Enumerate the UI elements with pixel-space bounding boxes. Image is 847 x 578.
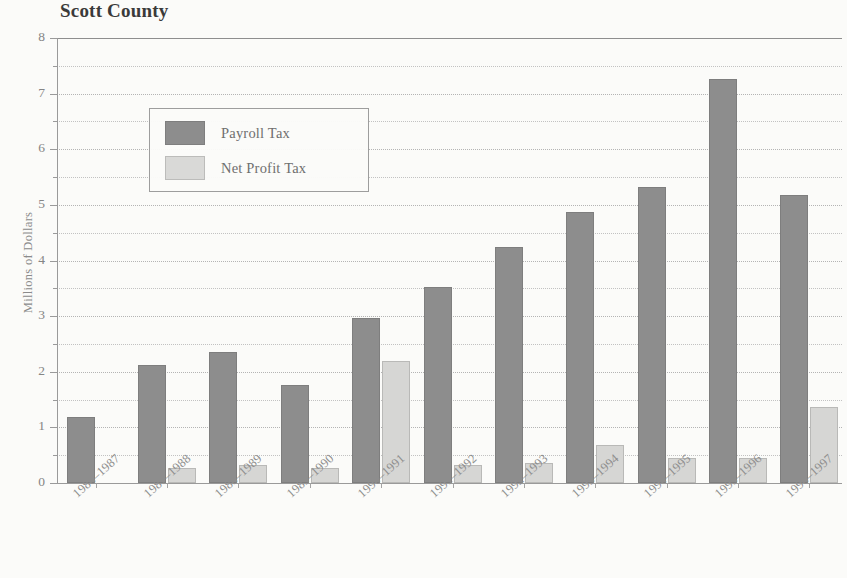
y-axis-tick: [50, 149, 58, 150]
bar-group: [495, 38, 553, 483]
y-axis-tick: [50, 372, 58, 373]
bar-payroll-tax: [495, 247, 523, 483]
y-axis-tick: [53, 177, 58, 178]
y-axis-tick-label: 7: [17, 85, 45, 101]
y-axis-tick: [53, 400, 58, 401]
bar-payroll-tax: [352, 318, 380, 483]
page-title: Scott County: [60, 0, 169, 22]
bar-group: [709, 38, 767, 483]
y-axis-tick: [50, 94, 58, 95]
y-axis-tick-label: 0: [17, 474, 45, 490]
y-axis-tick: [50, 205, 58, 206]
y-axis-tick: [53, 455, 58, 456]
legend-label-payroll-tax: Payroll Tax: [221, 125, 290, 142]
y-axis-tick: [50, 261, 58, 262]
bar-group: [352, 38, 410, 483]
bar-chart-figure: Scott County Millions of Dollars 0123456…: [0, 0, 847, 578]
y-axis-tick: [50, 483, 58, 484]
chart-legend: Payroll Tax Net Profit Tax: [149, 108, 369, 192]
bar-group: [209, 38, 267, 483]
y-axis-tick-label: 8: [17, 29, 45, 45]
legend-swatch-net-profit-tax: [165, 156, 205, 180]
plot-area: 012345678 1986–19871987–19881988–1989198…: [57, 38, 842, 483]
y-axis-tick: [53, 288, 58, 289]
y-axis-tick-label: 6: [17, 140, 45, 156]
y-axis-tick: [50, 427, 58, 428]
bar-group: [424, 38, 482, 483]
bar-payroll-tax: [709, 79, 737, 483]
legend-item-payroll-tax: Payroll Tax: [165, 119, 290, 147]
y-axis-tick-label: 5: [17, 196, 45, 212]
bar-payroll-tax: [638, 187, 666, 483]
legend-swatch-payroll-tax: [165, 121, 205, 145]
y-axis-tick-label: 2: [17, 363, 45, 379]
bar-group: [67, 38, 125, 483]
y-axis-tick: [50, 316, 58, 317]
y-axis-tick-label: 1: [17, 418, 45, 434]
y-axis-tick: [50, 38, 58, 39]
y-axis-tick-label: 3: [17, 307, 45, 323]
bar-group: [780, 38, 838, 483]
y-axis-tick: [53, 233, 58, 234]
bar-payroll-tax: [566, 212, 594, 483]
bar-group: [638, 38, 696, 483]
y-axis-tick: [53, 121, 58, 122]
bar-payroll-tax: [424, 287, 452, 483]
bar-payroll-tax: [209, 352, 237, 483]
y-axis-tick-label: 4: [17, 252, 45, 268]
bar-group: [138, 38, 196, 483]
bar-payroll-tax: [281, 385, 309, 483]
y-axis-tick: [53, 344, 58, 345]
bar-group: [281, 38, 339, 483]
bar-payroll-tax: [138, 365, 166, 483]
bar-payroll-tax: [780, 195, 808, 483]
bar-group: [566, 38, 624, 483]
y-axis-tick: [53, 66, 58, 67]
legend-item-net-profit-tax: Net Profit Tax: [165, 154, 306, 182]
legend-label-net-profit-tax: Net Profit Tax: [221, 160, 306, 177]
